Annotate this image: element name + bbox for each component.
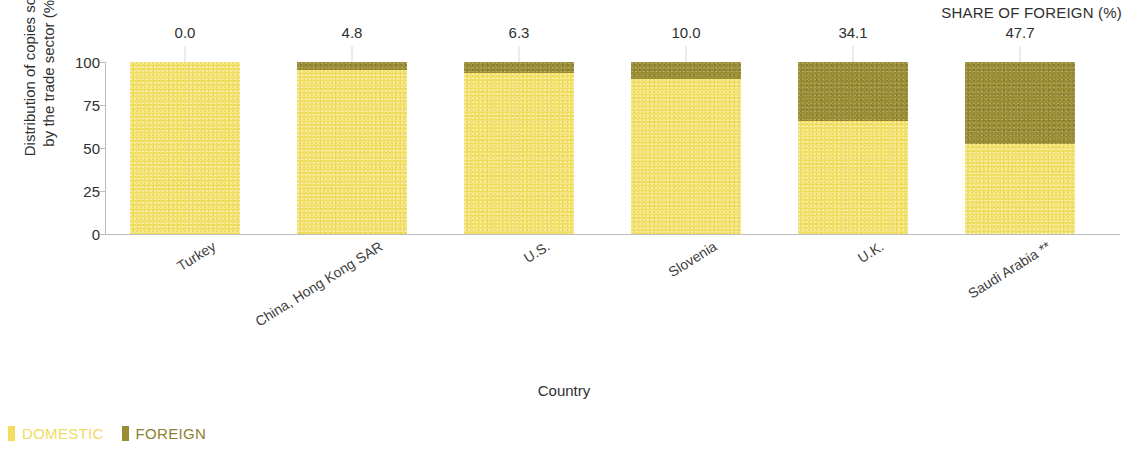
bar-segment-foreign bbox=[297, 62, 407, 70]
leader-line-3 bbox=[686, 46, 687, 62]
stacked-bar-chart: SHARE OF FOREIGN (%) 0.0 4.8 6.3 10.0 34… bbox=[0, 0, 1128, 453]
bar-turkey[interactable] bbox=[130, 62, 240, 234]
bar-uk[interactable] bbox=[798, 62, 908, 234]
share-of-foreign-title: SHARE OF FOREIGN (%) bbox=[941, 4, 1122, 21]
y-tick-mark-100 bbox=[100, 62, 105, 63]
value-label-1: 4.8 bbox=[342, 24, 363, 41]
legend-swatch-foreign-icon bbox=[122, 426, 129, 441]
bar-us[interactable] bbox=[464, 62, 574, 234]
x-label-turkey: Turkey bbox=[174, 238, 218, 274]
legend-item-foreign[interactable]: FOREIGN bbox=[122, 425, 206, 442]
bar-segment-domestic bbox=[130, 62, 240, 234]
chart-legend: DOMESTIC FOREIGN bbox=[8, 425, 206, 442]
y-axis-title: Distribution of copies sold by the trade… bbox=[21, 0, 59, 191]
x-label-saudi-arabia: Saudi Arabia ** bbox=[965, 238, 1053, 301]
y-axis-title-line2: by the trade sector (%) bbox=[40, 0, 59, 191]
legend-label-foreign: FOREIGN bbox=[136, 425, 206, 442]
legend-label-domestic: DOMESTIC bbox=[22, 425, 104, 442]
x-axis-category-labels: Turkey China, Hong Kong SAR U.S. Sloveni… bbox=[105, 238, 1120, 348]
value-label-0: 0.0 bbox=[175, 24, 196, 41]
bar-segment-domestic bbox=[965, 144, 1075, 234]
y-tick-mark-75 bbox=[100, 105, 105, 106]
bar-slovenia[interactable] bbox=[631, 62, 741, 234]
value-label-2: 6.3 bbox=[509, 24, 530, 41]
value-label-row: 0.0 4.8 6.3 10.0 34.1 47.7 bbox=[105, 24, 1120, 46]
x-label-china-hong-kong-sar: China, Hong Kong SAR bbox=[252, 238, 385, 330]
leader-line-1 bbox=[352, 46, 353, 62]
x-axis-title: Country bbox=[0, 382, 1128, 399]
bar-segment-domestic bbox=[798, 121, 908, 234]
leader-line-4 bbox=[853, 46, 854, 62]
x-label-slovenia: Slovenia bbox=[665, 238, 719, 280]
leader-line-2 bbox=[519, 46, 520, 62]
x-label-uk: U.K. bbox=[855, 238, 887, 266]
y-axis-tick-labels: 100 75 50 25 0 bbox=[55, 62, 100, 234]
leader-line-5 bbox=[1020, 46, 1021, 62]
value-label-4: 34.1 bbox=[838, 24, 867, 41]
x-label-us: U.S. bbox=[521, 238, 553, 266]
bar-china-hong-kong-sar[interactable] bbox=[297, 62, 407, 234]
bar-saudi-arabia[interactable] bbox=[965, 62, 1075, 234]
y-tick-mark-25 bbox=[100, 191, 105, 192]
y-tick-100: 100 bbox=[75, 54, 100, 71]
x-axis-line bbox=[105, 234, 1120, 235]
leader-line-0 bbox=[185, 46, 186, 62]
value-label-3: 10.0 bbox=[671, 24, 700, 41]
bar-segment-domestic bbox=[464, 73, 574, 234]
bar-segment-foreign bbox=[464, 62, 574, 73]
y-tick-mark-50 bbox=[100, 148, 105, 149]
legend-swatch-domestic-icon bbox=[8, 426, 15, 441]
y-axis-title-line1: Distribution of copies sold bbox=[21, 0, 40, 191]
value-label-5: 47.7 bbox=[1005, 24, 1034, 41]
bar-segment-foreign bbox=[798, 62, 908, 121]
bar-segment-foreign bbox=[631, 62, 741, 79]
plot-area bbox=[105, 62, 1120, 234]
y-tick-0: 0 bbox=[92, 226, 100, 243]
y-tick-75: 75 bbox=[83, 97, 100, 114]
y-axis-line bbox=[105, 62, 106, 234]
bar-segment-domestic bbox=[297, 70, 407, 234]
y-tick-50: 50 bbox=[83, 140, 100, 157]
legend-item-domestic[interactable]: DOMESTIC bbox=[8, 425, 104, 442]
y-tick-25: 25 bbox=[83, 183, 100, 200]
bar-segment-domestic bbox=[631, 79, 741, 234]
y-tick-mark-0 bbox=[100, 234, 105, 235]
bar-segment-foreign bbox=[965, 62, 1075, 144]
